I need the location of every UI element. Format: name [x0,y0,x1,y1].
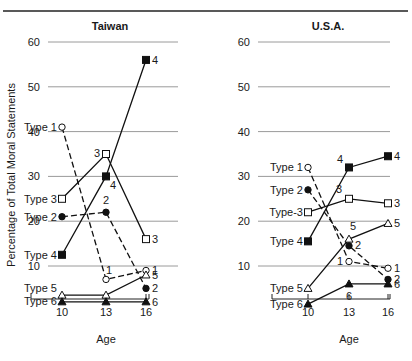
series-label-left: Type 4 [24,249,57,261]
x-tick-label: 16 [140,306,152,318]
series-label-mid: 1 [106,264,112,276]
y-tick-label: 10 [238,260,250,272]
series-label-left: Type 1 [24,121,57,133]
series-label-right: 3 [394,197,400,209]
marker-open-circle-icon [103,276,109,282]
series-label-mid: 2 [103,194,109,206]
series-label-left: Type-3 [269,206,303,218]
marker-filled-circle-icon [143,285,149,291]
marker-open-square-icon [305,209,312,216]
series-label-left: Type 1 [270,161,303,173]
marker-open-circle-icon [385,265,391,271]
series-line-type-1 [308,167,388,268]
x-tick-label: 10 [56,306,68,318]
series-label-left: Type 2 [270,184,303,196]
marker-open-square-icon [346,195,353,202]
marker-filled-square-icon [346,164,353,171]
y-tick-label: 50 [28,81,40,93]
series-label-left: Type 5 [24,282,57,294]
series-label-mid: 2 [355,239,361,251]
y-tick-label: 30 [238,170,250,182]
y-tick-label: 50 [238,81,250,93]
series-label-right: 4 [152,54,158,66]
series-label-left: Type 6 [270,298,303,310]
marker-open-square-icon [59,195,66,202]
x-tick-label: 13 [343,306,355,318]
series-label-left: Type 2 [24,211,57,223]
x-tick-label: 10 [302,306,314,318]
series-label-right: 3 [152,233,158,245]
series-label-right: 4 [394,150,400,162]
marker-open-circle-icon [59,124,65,130]
y-tick-label: 30 [28,170,40,182]
panel-usa: U.S.A.102030405060101316AgeType 111Type … [238,20,400,345]
marker-open-square-icon [385,200,392,207]
marker-open-square-icon [103,151,110,158]
marker-open-circle-icon [305,164,311,170]
x-tick-label: 16 [382,306,394,318]
series-label-mid: 5 [350,220,356,232]
panel-taiwan: Taiwan102030405060101316AgeType 11Type 2… [24,20,178,345]
series-label-left: Type 6 [24,295,57,307]
series-label-right: 2 [152,282,158,294]
marker-filled-circle-icon [103,209,109,215]
series-label-left: Type 5 [270,282,303,294]
marker-open-triangle-icon [384,219,392,226]
marker-open-square-icon [143,236,150,243]
series-label-right: 6 [152,296,158,308]
marker-filled-square-icon [103,173,110,180]
series-label-left: Type 4 [270,235,303,247]
x-tick-label: 13 [100,306,112,318]
y-axis-label: Percentage of Total Moral Statements [5,83,17,267]
series-label-right: 6 [394,278,400,290]
series-label-left: Type 3 [24,193,57,205]
y-tick-label: 60 [28,36,40,48]
marker-filled-circle-icon [59,214,65,220]
marker-filled-square-icon [59,251,66,258]
marker-filled-square-icon [385,153,392,160]
marker-filled-circle-icon [305,187,311,193]
marker-filled-square-icon [305,238,312,245]
y-tick-label: 60 [238,36,250,48]
y-tick-label: 20 [238,215,250,227]
series-label-mid: 1 [337,255,343,267]
chart-canvas: Percentage of Total Moral StatementsTaiw… [0,0,412,361]
series-label-mid: 4 [110,179,116,191]
y-tick-label: 40 [238,126,250,138]
marker-open-circle-icon [346,258,352,264]
series-label-mid: 6 [346,290,352,302]
panel-title: Taiwan [92,20,129,32]
x-axis-label: Age [96,333,116,345]
x-axis-label: Age [339,333,359,345]
series-label-right: 5 [394,217,400,229]
marker-filled-square-icon [143,56,150,63]
y-tick-label: 10 [28,260,40,272]
series-label-mid: 3 [94,147,100,159]
series-label-right: 5 [152,269,158,281]
marker-filled-triangle-icon [304,300,312,307]
series-label-right: 1 [394,262,400,274]
marker-filled-circle-icon [346,243,352,249]
figure: Percentage of Total Moral StatementsTaiw… [0,0,412,361]
series-line-type-5 [308,223,388,288]
panel-title: U.S.A. [312,20,344,32]
series-label-mid: 4 [337,153,343,165]
